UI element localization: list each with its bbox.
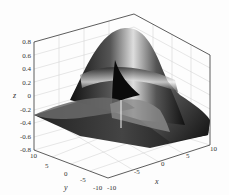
z-axis-label: z <box>12 91 17 100</box>
z-axis: 0.8 0.6 0.4 0.2 0 -0.2 -0.4 -0.6 -0.8 z <box>12 38 32 154</box>
svg-text:-0.4: -0.4 <box>20 119 32 127</box>
svg-text:-0.6: -0.6 <box>20 133 32 141</box>
surface-plot: 0.8 0.6 0.4 0.2 0 -0.2 -0.4 -0.6 -0.8 z … <box>0 0 229 195</box>
x-axis-label: x <box>154 177 159 186</box>
y-axis-label: y <box>63 183 68 192</box>
svg-text:5: 5 <box>186 152 190 160</box>
surface <box>34 28 210 148</box>
svg-text:0: 0 <box>64 170 68 178</box>
svg-text:-10: -10 <box>107 184 117 192</box>
svg-text:10: 10 <box>30 152 38 160</box>
svg-text:5: 5 <box>45 162 49 170</box>
svg-text:-0.2: -0.2 <box>20 106 32 114</box>
svg-text:0.6: 0.6 <box>22 52 31 60</box>
svg-text:0: 0 <box>161 160 165 168</box>
svg-text:-5: -5 <box>80 176 86 184</box>
svg-text:10: 10 <box>210 145 218 153</box>
svg-text:-5: -5 <box>134 168 140 176</box>
svg-text:0.4: 0.4 <box>22 65 31 73</box>
svg-text:0.8: 0.8 <box>22 38 31 46</box>
svg-text:0: 0 <box>28 92 32 100</box>
svg-text:-10: -10 <box>93 184 103 192</box>
svg-text:0.2: 0.2 <box>22 79 31 87</box>
x-axis: -10 -5 0 5 10 x <box>107 145 218 192</box>
